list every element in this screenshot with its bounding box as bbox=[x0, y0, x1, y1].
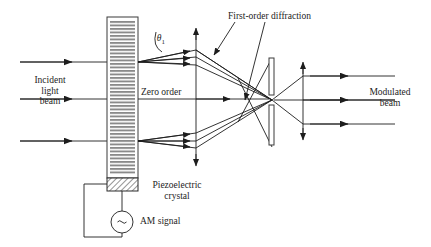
theta-subscript: 1 bbox=[161, 37, 165, 45]
crossing-rays bbox=[196, 50, 272, 147]
first-order-leader-lines bbox=[214, 22, 265, 100]
drive-circuit bbox=[84, 184, 133, 237]
zero-order-label: Zero order bbox=[141, 87, 181, 98]
first-order-label: First-order diffraction bbox=[228, 11, 311, 22]
incident-beam-label: Incident light beam bbox=[14, 75, 86, 107]
modulated-beam-label: Modulated beam bbox=[356, 87, 424, 108]
piezoelectric-crystal-block bbox=[107, 178, 138, 191]
theta-label: θ1 bbox=[152, 22, 165, 47]
piezoelectric-crystal-label: Piezoelectric crystal bbox=[142, 180, 212, 201]
diagram-canvas: Incident light beam θ1 Zero order First-… bbox=[0, 0, 431, 247]
optics-diagram-svg bbox=[0, 0, 431, 247]
am-signal-label: AM signal bbox=[140, 216, 180, 227]
diffraction-grating bbox=[107, 17, 138, 178]
